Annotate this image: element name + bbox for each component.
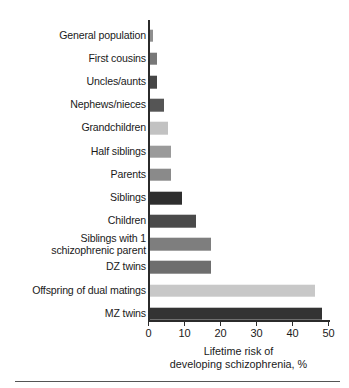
bar-row: Siblings <box>0 186 349 209</box>
bar <box>150 261 211 274</box>
bar <box>150 122 168 135</box>
bar <box>150 99 164 112</box>
bar <box>150 308 323 321</box>
bar <box>150 284 316 297</box>
bar <box>150 52 157 65</box>
bar-category-label: Children <box>6 215 146 226</box>
bar-category-label: First cousins <box>6 53 146 64</box>
bar-row: Nephews/nieces <box>0 94 349 117</box>
schizophrenia-risk-chart: General populationFirst cousinsUncles/au… <box>0 0 349 388</box>
x-tick-label: 50 <box>322 327 334 339</box>
plot-area: General populationFirst cousinsUncles/au… <box>0 0 349 388</box>
bar-row: First cousins <box>0 47 349 70</box>
bar-category-label: MZ twins <box>6 308 146 319</box>
bar <box>150 215 197 228</box>
bar-row: DZ twins <box>0 256 349 279</box>
bar-row: Siblings with 1 schizophrenic parent <box>0 233 349 256</box>
x-tick <box>328 320 329 326</box>
x-axis-title-line-1: Lifetime risk of <box>148 345 329 358</box>
bar-row: Children <box>0 210 349 233</box>
x-tick <box>256 320 257 326</box>
bar <box>150 238 211 251</box>
bar-category-label: General population <box>6 30 146 41</box>
bar-category-label: Parents <box>6 169 146 180</box>
bar-category-label: Siblings with 1 schizophrenic parent <box>6 233 146 256</box>
bar-row: Uncles/aunts <box>0 70 349 93</box>
bar-row: Offspring of dual matings <box>0 279 349 302</box>
bar <box>150 29 154 42</box>
bar <box>150 192 182 205</box>
bar-row: Half siblings <box>0 140 349 163</box>
x-tick <box>148 320 149 326</box>
bar-category-label: Offspring of dual matings <box>6 285 146 296</box>
x-axis-title-line-2: developing schizophrenia, % <box>148 358 329 371</box>
bar-row: Grandchildren <box>0 117 349 140</box>
x-tick-label: 20 <box>214 327 226 339</box>
bar-category-label: Nephews/nieces <box>6 99 146 110</box>
x-tick-label: 0 <box>145 327 151 339</box>
x-axis-title: Lifetime risk of developing schizophreni… <box>148 345 329 370</box>
x-tick-label: 30 <box>250 327 262 339</box>
x-tick-label: 10 <box>178 327 190 339</box>
bar-category-label: Siblings <box>6 192 146 203</box>
bar-category-label: DZ twins <box>6 262 146 273</box>
bar-category-label: Uncles/aunts <box>6 76 146 87</box>
x-axis-line <box>148 320 330 322</box>
x-tick <box>292 320 293 326</box>
bar <box>150 168 172 181</box>
footer-rule <box>15 381 340 382</box>
bar-rows: General populationFirst cousinsUncles/au… <box>0 24 349 325</box>
x-tick-label: 40 <box>286 327 298 339</box>
x-tick <box>220 320 221 326</box>
bar-category-label: Grandchildren <box>6 123 146 134</box>
bar-row: MZ twins <box>0 302 349 325</box>
bar-category-label: Half siblings <box>6 146 146 157</box>
bar <box>150 145 172 158</box>
bar <box>150 76 157 89</box>
bar-row: Parents <box>0 163 349 186</box>
bar-row: General population <box>0 24 349 47</box>
x-tick <box>184 320 185 326</box>
